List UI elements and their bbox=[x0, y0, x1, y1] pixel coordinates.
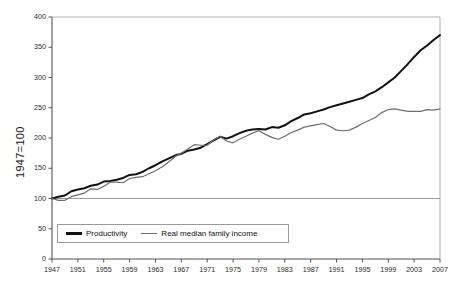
x-tick-label: 2007 bbox=[424, 265, 456, 274]
series-line-1 bbox=[52, 109, 440, 200]
y-tick-label: 0 bbox=[10, 254, 46, 263]
series-line-0 bbox=[52, 35, 440, 198]
y-tick-label: 400 bbox=[10, 12, 46, 21]
y-tick-label: 300 bbox=[10, 73, 46, 82]
legend-label-real-median-family-income: Real median family income bbox=[161, 229, 257, 238]
legend-swatch-productivity bbox=[66, 232, 82, 234]
legend-swatch-real-median-family-income bbox=[141, 233, 157, 234]
y-tick-label: 350 bbox=[10, 42, 46, 51]
y-tick-label: 100 bbox=[10, 194, 46, 203]
legend-item-productivity: Productivity bbox=[66, 229, 127, 238]
y-tick-label: 250 bbox=[10, 103, 46, 112]
y-tick-label: 200 bbox=[10, 133, 46, 142]
y-tick-label: 150 bbox=[10, 163, 46, 172]
chart-legend: Productivity Real median family income bbox=[57, 224, 289, 243]
legend-item-real-median-family-income: Real median family income bbox=[141, 229, 257, 238]
y-tick-label: 50 bbox=[10, 224, 46, 233]
chart-container: 1947=100 050100150200250300350400 194719… bbox=[0, 0, 462, 285]
legend-label-productivity: Productivity bbox=[86, 229, 127, 238]
